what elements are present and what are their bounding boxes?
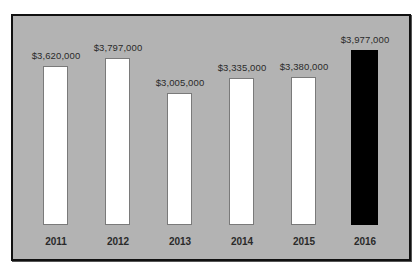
category-label-2014: 2014 (212, 236, 272, 247)
bar-2016 (351, 50, 378, 225)
chart-frame: $3,620,000 $3,797,000 $3,005,000 $3,335,… (11, 14, 411, 261)
bar-2012 (105, 58, 130, 225)
category-label-2015: 2015 (274, 236, 334, 247)
value-label-2012: $3,797,000 (78, 42, 158, 53)
category-label-2011: 2011 (26, 236, 86, 247)
category-label-2013: 2013 (150, 236, 210, 247)
value-label-2013: $3,005,000 (140, 77, 220, 88)
bar-2011 (43, 66, 68, 225)
bar-2013 (167, 93, 192, 225)
category-label-2012: 2012 (88, 236, 148, 247)
bar-2015 (291, 77, 316, 225)
value-label-2015: $3,380,000 (264, 61, 344, 72)
value-label-2016: $3,977,000 (325, 34, 405, 45)
bar-2014 (229, 78, 254, 225)
category-label-2016: 2016 (335, 236, 395, 247)
